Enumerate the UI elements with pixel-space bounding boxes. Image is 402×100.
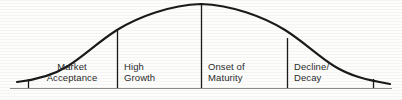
product-life-cycle-figure: Market Acceptance High Growth Onset of M… xyxy=(0,0,402,100)
bell-curve-diagram xyxy=(0,0,402,100)
bell-curve-path xyxy=(17,4,390,84)
